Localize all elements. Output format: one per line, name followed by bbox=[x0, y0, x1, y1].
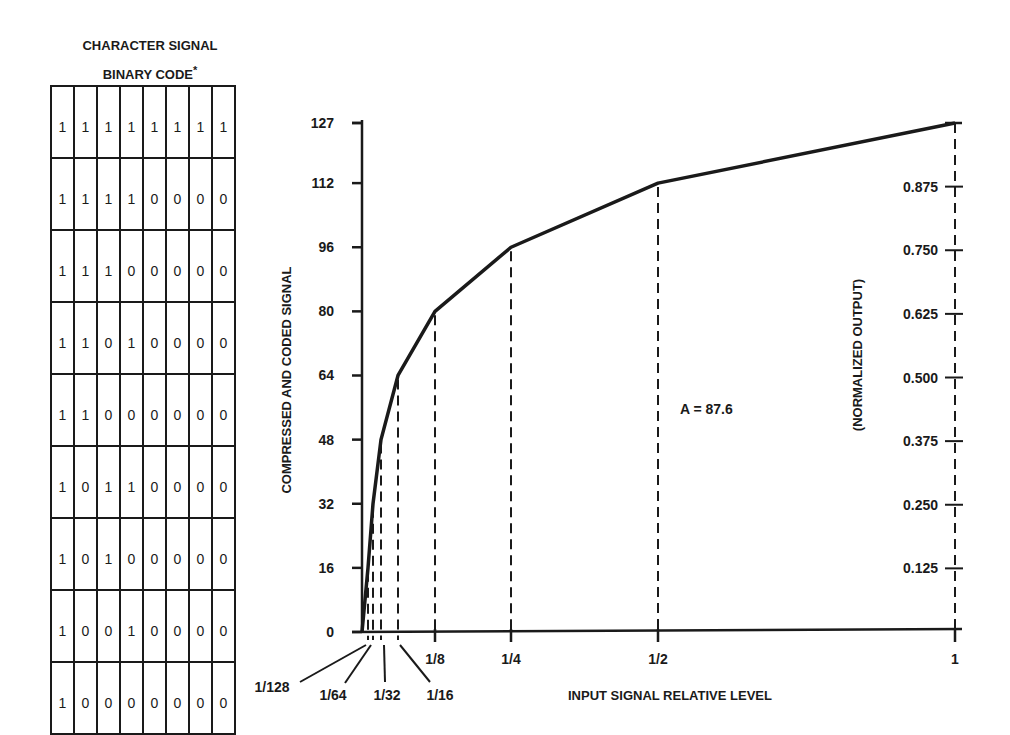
normalized-tick-label: 0.125 bbox=[903, 560, 938, 576]
normalized-tick-label: 0.500 bbox=[903, 370, 938, 386]
normalized-tick-label: 0.250 bbox=[903, 497, 938, 513]
dashed-drop-lines bbox=[368, 187, 658, 640]
x-axis-label: INPUT SIGNAL RELATIVE LEVEL bbox=[568, 688, 772, 703]
x-axis-ticks: 1/81/41/21 bbox=[425, 629, 959, 667]
x-tick-label: 1/2 bbox=[648, 651, 668, 667]
normalized-tick-label: 0.625 bbox=[903, 306, 938, 322]
normalized-tick-label: 0.375 bbox=[903, 433, 938, 449]
y-tick-label: 112 bbox=[311, 175, 334, 191]
y-tick-label: 96 bbox=[318, 239, 334, 255]
x-fraction-label: 1/64 bbox=[319, 687, 346, 703]
y-tick-label: 0 bbox=[326, 624, 334, 640]
x-fraction-label: 1/128 bbox=[254, 679, 289, 695]
leader-line bbox=[384, 645, 385, 682]
leader-line bbox=[300, 645, 366, 682]
y-tick-label: 127 bbox=[311, 115, 335, 131]
x-fraction-label: 1/32 bbox=[373, 687, 400, 703]
normalized-axis-ticks: 0.1250.2500.3750.5000.6250.7500.875 bbox=[903, 123, 963, 629]
y-tick-label: 32 bbox=[318, 496, 334, 512]
x-fraction-labels: 1/1281/641/321/16 bbox=[254, 645, 453, 703]
annotation-a-value: A = 87.6 bbox=[680, 401, 733, 417]
normalized-tick-label: 0.750 bbox=[903, 242, 938, 258]
x-tick-label: 1/8 bbox=[425, 651, 445, 667]
leader-line bbox=[345, 645, 371, 683]
y-tick-label: 48 bbox=[318, 432, 334, 448]
x-fraction-label: 1/16 bbox=[426, 687, 453, 703]
x-tick-label: 1/4 bbox=[501, 651, 521, 667]
y-tick-label: 64 bbox=[318, 367, 334, 383]
normalized-axis-label: (NORMALIZED OUTPUT) bbox=[850, 279, 865, 431]
y-tick-label: 80 bbox=[318, 303, 334, 319]
y-axis-ticks: 0163248648096112127 bbox=[311, 115, 362, 640]
y-tick-label: 16 bbox=[318, 560, 334, 576]
normalized-tick-label: 0.875 bbox=[903, 179, 938, 195]
x-tick-label: 1 bbox=[951, 651, 959, 667]
y-axis-label: COMPRESSED AND CODED SIGNAL bbox=[279, 266, 294, 493]
